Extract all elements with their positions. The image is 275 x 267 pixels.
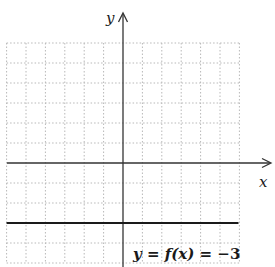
equation-x: (x) xyxy=(171,245,194,263)
y-axis-label: y xyxy=(105,9,115,27)
coordinate-plane: y x y = f(x) = −3 xyxy=(0,0,275,267)
x-axis-label: x xyxy=(259,173,268,191)
equation-value: = −3 xyxy=(194,245,240,263)
equation-equals: = xyxy=(142,245,165,263)
equation-label: y = f(x) = −3 xyxy=(132,245,240,263)
